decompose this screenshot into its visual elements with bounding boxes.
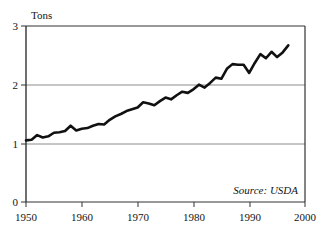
- y-tick-label-0: 0: [13, 196, 19, 208]
- chart-container: Tons 3 2 1 0 1950 1960 1970 1980 1990 20…: [0, 0, 321, 230]
- x-tick-label-1980: 1980: [183, 211, 206, 223]
- x-tick-label-1960: 1960: [71, 211, 94, 223]
- x-tick-label-1990: 1990: [239, 211, 262, 223]
- x-tick-label-2000: 2000: [294, 211, 317, 223]
- y-tick-label-3: 3: [13, 20, 19, 32]
- source-annotation: Source: USDA: [233, 184, 298, 196]
- y-tick-label-2: 2: [13, 79, 19, 91]
- y-tick-label-1: 1: [13, 138, 19, 150]
- x-tick-label-1950: 1950: [15, 211, 38, 223]
- y-axis-label: Tons: [31, 9, 52, 21]
- line-chart: Tons 3 2 1 0 1950 1960 1970 1980 1990 20…: [0, 0, 321, 230]
- x-tick-label-1970: 1970: [127, 211, 150, 223]
